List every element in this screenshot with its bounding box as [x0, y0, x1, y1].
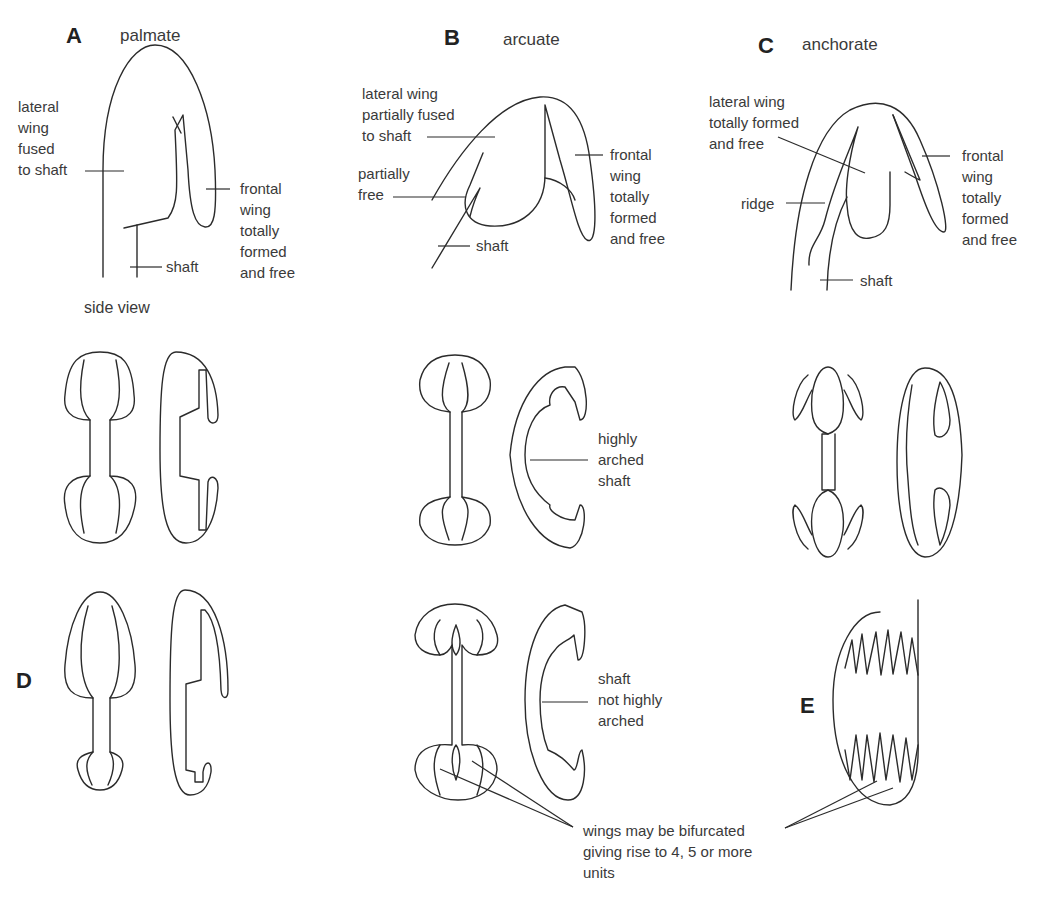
label-b-shaft: shaft — [476, 235, 509, 256]
palmate-front-view-drawing — [64, 352, 135, 543]
note-pointer-lines — [440, 761, 893, 828]
panel-e-letter: E — [800, 693, 815, 719]
label-a-side-view: side view — [84, 297, 150, 318]
label-a-frontal-wing: frontal wing totally formed and free — [240, 178, 295, 283]
arcuate-front-view-drawing — [420, 355, 491, 545]
note-wings-bifurcated: wings may be bifurcated giving rise to 4… — [583, 820, 752, 883]
label-c-frontal-wing: frontal wing totally formed and free — [962, 145, 1017, 250]
label-a-shaft: shaft — [166, 256, 199, 277]
arcuate-highly-arched-side-drawing — [510, 367, 588, 548]
panel-a-letter: A — [66, 23, 82, 49]
label-c-ridge: ridge — [741, 193, 774, 214]
palmate-side-view-2-drawing — [160, 352, 218, 543]
panel-a-title: palmate — [120, 26, 180, 46]
label-b-highly-arched-shaft: highly arched shaft — [598, 428, 644, 491]
panel-c-title: anchorate — [802, 35, 878, 55]
diagram-canvas — [0, 0, 1039, 900]
bifurcated-front-view-drawing — [415, 604, 498, 800]
label-c-lateral-wing: lateral wing totally formed and free — [709, 91, 799, 154]
variant-d-side-view-drawing — [170, 590, 228, 795]
panel-b-letter: B — [444, 25, 460, 51]
label-c-shaft: shaft — [860, 270, 893, 291]
label-a-lateral-wing: lateral wing fused to shaft — [18, 96, 67, 180]
panel-b-title: arcuate — [503, 30, 560, 50]
label-b-frontal-wing: frontal wing totally formed and free — [610, 144, 665, 249]
variant-e-drawing — [833, 600, 918, 805]
bifurcated-side-view-drawing — [525, 605, 588, 800]
anchorate-side-view-drawing — [778, 103, 950, 290]
anchorate-side-view-drawing-2 — [897, 368, 962, 557]
label-b-lateral-wing: lateral wing partially fused to shaft — [362, 83, 455, 146]
panel-d-letter: D — [16, 668, 32, 694]
anchorate-front-view-drawing — [793, 367, 863, 557]
panel-c-letter: C — [758, 33, 774, 59]
palmate-side-view-drawing — [85, 45, 230, 277]
variant-d-front-view-drawing — [65, 592, 136, 790]
label-b-shaft-not-highly-arched: shaft not highly arched — [598, 668, 662, 731]
label-b-partially-free: partially free — [358, 163, 410, 205]
